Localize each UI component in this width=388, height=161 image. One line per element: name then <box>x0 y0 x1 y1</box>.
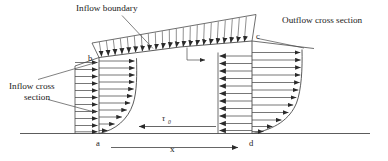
point-label-b: b <box>88 53 92 63</box>
tau-symbol: τ <box>162 114 166 123</box>
x-axis-label: x <box>170 144 175 154</box>
leader-inflow-boundary <box>122 16 153 49</box>
outflow-left-arrows <box>220 56 253 131</box>
boundary-layer-arrows-left <box>99 61 135 131</box>
outflow-cross-section-group <box>218 41 302 134</box>
leader-inflow-cross-upper <box>38 63 96 80</box>
inflow-boundary-arrows <box>101 38 245 56</box>
outflow-profile-arrows <box>252 53 301 132</box>
boundary-layer-control-volume-diagram: Inflow boundary Outflow cross section In… <box>0 0 388 161</box>
inflow-cross-section-label-line1: Inflow cross <box>9 81 55 91</box>
inflow-boundary-label: Inflow boundary <box>76 3 138 13</box>
leader-inflow-cross-lower <box>48 100 96 113</box>
leader-outflow-cross <box>258 39 304 49</box>
outflow-cross-section-label: Outflow cross section <box>282 15 363 25</box>
boundary-layer-profile-left <box>99 58 137 133</box>
wall-shear-stress-label: τ 0 <box>162 114 171 125</box>
point-label-d: d <box>249 138 254 148</box>
outflow-upper-edge <box>252 41 314 49</box>
point-label-c: c <box>256 31 260 41</box>
inflow-boundary-group <box>92 15 256 58</box>
inflow-cross-section-group <box>75 58 99 134</box>
point-label-a: a <box>96 138 100 148</box>
tau-subscript: 0 <box>168 119 171 125</box>
leader-lines <box>38 16 304 113</box>
figure-container: Inflow boundary Outflow cross section In… <box>0 0 388 161</box>
inflow-cross-section-label-line2: section <box>24 92 50 102</box>
inflow-uniform-arrows <box>75 63 98 132</box>
leader-mid-boundary <box>187 48 205 61</box>
inflow-boundary-hatch <box>99 17 246 57</box>
